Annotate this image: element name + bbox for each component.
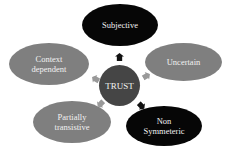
node-trust: TRUST [99, 65, 140, 106]
node-subjective: Subjective [82, 4, 158, 46]
node-non-symmeteric: Non Symmeteric [126, 106, 202, 146]
node-label: Subjective [102, 20, 138, 30]
node-label: Uncertain [167, 57, 201, 67]
node-uncertain: Uncertain [145, 43, 222, 81]
node-label: Partially transistive [47, 112, 97, 132]
arrow-up-icon [115, 53, 124, 61]
node-context-dependent: Context dependent [9, 43, 89, 85]
center-label: TRUST [105, 81, 134, 91]
node-label: Non Symmeteric [138, 116, 190, 136]
node-label: Context dependent [23, 54, 75, 74]
